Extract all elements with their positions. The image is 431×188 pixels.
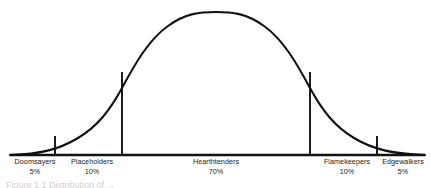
segment-percent: 10% bbox=[57, 168, 127, 175]
figure-caption-text: Figure 1.1 Distribution of ... bbox=[6, 180, 306, 188]
figure-caption-clipped: Figure 1.1 Distribution of ... bbox=[6, 180, 306, 188]
segment-percent: 70% bbox=[181, 168, 251, 175]
bell-curve-figure: Doomsayers 5% Placeholders 10% Hearthten… bbox=[0, 0, 431, 188]
segment-name: Edgewalkers bbox=[369, 158, 431, 165]
segment-label-hearthtenders: Hearthtenders 70% bbox=[181, 158, 251, 175]
segment-percent: 5% bbox=[369, 168, 431, 175]
segment-label-placeholders: Placeholders 10% bbox=[57, 158, 127, 175]
segment-name: Placeholders bbox=[57, 158, 127, 165]
normal-distribution-curve bbox=[10, 12, 425, 155]
segment-name: Hearthtenders bbox=[181, 158, 251, 165]
segment-label-edgewalkers: Edgewalkers 5% bbox=[369, 158, 431, 175]
